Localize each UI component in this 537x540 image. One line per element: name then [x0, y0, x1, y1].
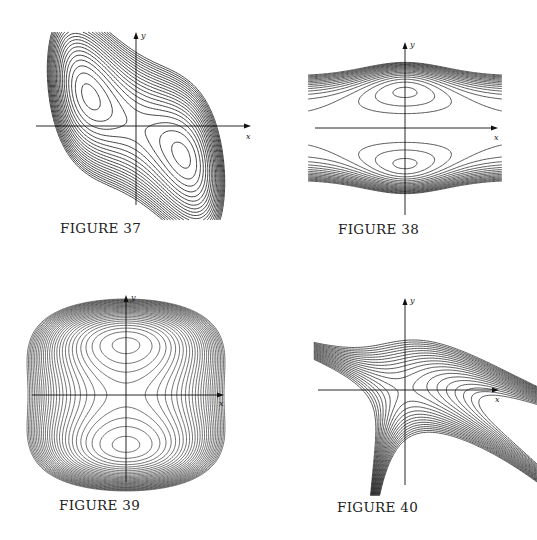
y-axis-arrow: [403, 298, 408, 305]
figure-39: y x FIGURE 39: [0, 270, 268, 540]
x-axis-arrow: [244, 124, 251, 129]
figure-40: y x FIGURE 40: [270, 270, 537, 540]
y-axis-label: y: [130, 293, 136, 302]
y-axis-arrow: [403, 42, 408, 49]
x-axis-label: x: [246, 132, 251, 141]
figure-37: y x FIGURE 37: [0, 0, 268, 260]
x-axis-label: x: [219, 399, 224, 408]
x-axis-label: x: [495, 395, 500, 404]
figure-38-caption: FIGURE 38: [338, 221, 419, 237]
x-axis-label: x: [494, 133, 499, 142]
y-axis-label: y: [409, 40, 415, 49]
y-axis-label: y: [409, 296, 415, 305]
y-axis-arrow: [134, 32, 139, 39]
figure-39-caption: FIGURE 39: [59, 497, 140, 513]
figure-40-caption: FIGURE 40: [337, 499, 418, 515]
x-axis-arrow: [491, 126, 498, 131]
figure-37-caption: FIGURE 37: [60, 220, 141, 236]
y-axis-label: y: [140, 31, 146, 40]
figure-38: y x FIGURE 38: [270, 0, 537, 260]
y-axis-arrow: [124, 295, 129, 302]
x-axis-arrow: [217, 393, 224, 398]
